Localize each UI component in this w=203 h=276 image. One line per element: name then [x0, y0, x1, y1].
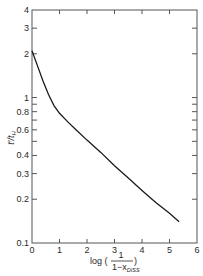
- y-tick-label: 2: [24, 49, 29, 59]
- y-tick-label: 1: [24, 93, 29, 103]
- x-tick-label: 1: [57, 245, 62, 255]
- y-tick-label: 0.1: [16, 238, 29, 248]
- x-tick-label: 6: [194, 245, 199, 255]
- y-tick-label: 0.2: [16, 194, 29, 204]
- y-tick-label: 0.8: [16, 107, 29, 117]
- y-tick-label: 0.6: [16, 125, 29, 135]
- svg-text:t′/tH: t′/tH: [6, 131, 17, 145]
- x-tick-label: 3: [112, 245, 117, 255]
- y-tick-label: 3: [24, 23, 29, 33]
- x-label-numerator: 1: [118, 250, 123, 260]
- plot-frame: [32, 10, 197, 243]
- x-tick-label: 4: [139, 245, 144, 255]
- x-axis-ticks: 0123456: [29, 10, 199, 255]
- x-tick-label: 0: [29, 245, 34, 255]
- x-tick-label: 5: [167, 245, 172, 255]
- data-curve: [32, 51, 179, 222]
- x-label-prefix: log (: [90, 256, 108, 266]
- y-tick-label: 4: [24, 5, 29, 15]
- y-tick-label: 0.3: [16, 169, 29, 179]
- y-axis-ticks: 0.10.20.30.40.60.81234: [16, 5, 197, 248]
- y-axis-label: t′/tH: [6, 131, 17, 145]
- x-tick-label: 2: [84, 245, 89, 255]
- x-label-suffix: ): [134, 256, 137, 266]
- y-tick-label: 0.4: [16, 150, 29, 160]
- chart: 0123456 0.10.20.30.40.60.81234 log ( 1 1…: [0, 0, 203, 276]
